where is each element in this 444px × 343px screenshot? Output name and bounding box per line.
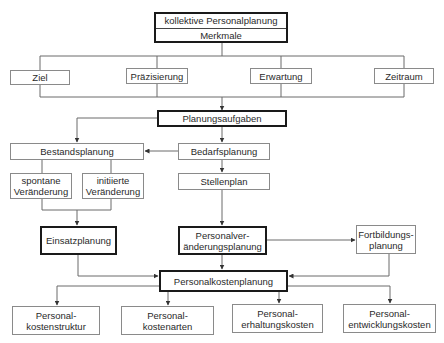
- fortbildung-line1: Fortbildungs-: [358, 229, 413, 240]
- bedarfsplanung-box: Bedarfsplanung: [178, 143, 270, 160]
- personalkostenstruktur-box: Personal- kostenstruktur: [12, 306, 100, 335]
- kosten-1-line2: kostenarten: [143, 321, 193, 332]
- spontane-line1: spontane: [21, 175, 60, 186]
- stellenplan-box: Stellenplan: [178, 173, 270, 190]
- personalkostenarten-box: Personal- kostenarten: [121, 306, 214, 335]
- kosten-2-line2: erhaltungskosten: [241, 319, 313, 330]
- personalkostenplanung-box: Personalkostenplanung: [159, 270, 288, 292]
- kosten-3-line2: entwicklungskosten: [348, 319, 430, 330]
- kosten-1-line1: Personal-: [147, 310, 188, 321]
- merkmal-erwartung: Erwartung: [250, 68, 312, 84]
- kollektive-personalplanung-box: kollektive Personalplanung Merkmale: [154, 12, 288, 43]
- merkmal-praezisierung: Präzisierung: [126, 68, 188, 84]
- planungsaufgaben-box: Planungsaufgaben: [157, 110, 287, 127]
- spontane-veraenderung-box: spontane Veränderung: [10, 173, 72, 199]
- personalerhaltungskosten-box: Personal- erhaltungskosten: [232, 304, 323, 333]
- top-box-subtitle: Merkmale: [156, 28, 286, 43]
- kosten-2-line1: Personal-: [257, 308, 298, 319]
- einsatzplanung-box: Einsatzplanung: [40, 226, 117, 255]
- top-box-title: kollektive Personalplanung: [156, 14, 286, 28]
- kosten-0-line1: Personal-: [36, 310, 77, 321]
- merkmal-zeitraum: Zeitraum: [374, 68, 434, 84]
- fortbildungsplanung-box: Fortbildungs- planung: [356, 225, 416, 254]
- initiierte-line2: Veränderung: [86, 186, 140, 197]
- kosten-0-line2: kostenstruktur: [26, 321, 86, 332]
- spontane-line2: Veränderung: [14, 186, 68, 197]
- fortbildung-line2: planung: [369, 240, 403, 251]
- personalveraenderung-line2: änderungsplanung: [183, 241, 262, 252]
- initiierte-veraenderung-box: initiierte Veränderung: [82, 173, 144, 199]
- personalentwicklungskosten-box: Personal- entwicklungskosten: [343, 304, 436, 333]
- bestandsplanung-box: Bestandsplanung: [10, 143, 144, 160]
- initiierte-line1: initiierte: [97, 175, 130, 186]
- personalveraenderung-line1: Personalver-: [196, 230, 250, 241]
- merkmal-ziel: Ziel: [10, 70, 70, 85]
- personalveraenderungsplanung-box: Personalver- änderungsplanung: [178, 226, 267, 255]
- kosten-3-line1: Personal-: [369, 308, 410, 319]
